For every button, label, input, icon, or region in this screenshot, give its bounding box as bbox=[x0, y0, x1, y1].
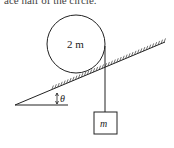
block-label: m bbox=[100, 118, 107, 129]
cylinder-label: 2 m bbox=[67, 38, 84, 50]
physics-diagram: /* placeholder */ θ 2 m m bbox=[0, 0, 174, 148]
incline-surface bbox=[15, 42, 165, 105]
angle-label: θ bbox=[60, 93, 65, 104]
